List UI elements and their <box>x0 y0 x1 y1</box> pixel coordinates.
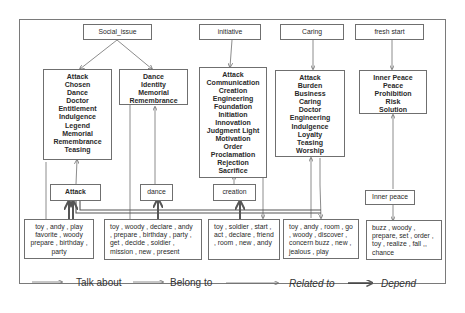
concept-item: Communication <box>200 79 266 87</box>
concept-item: Motivation <box>200 135 266 143</box>
concept-item: Business <box>276 90 344 98</box>
concept-item: Worship <box>276 147 344 155</box>
concept-item: Foundation <box>200 103 266 111</box>
concept-item: Sacrifice <box>200 167 266 175</box>
concept-item: Attack <box>200 71 266 79</box>
concept-item: Peace <box>360 82 426 90</box>
concept-item: Remembrance <box>44 138 111 146</box>
concept-list-fresh-start: Inner Peace Peace Prohibition Risk Solut… <box>359 70 427 114</box>
concept-item: Teasing <box>276 139 344 147</box>
topic-social-issue: Social_issue <box>83 24 152 40</box>
legend-talk-about: Talk about <box>70 275 122 289</box>
concept-item: Burden <box>276 82 344 90</box>
concept-item: Inner Peace <box>360 74 426 82</box>
concept-item: Identity <box>120 81 187 89</box>
topic-initiative: initiative <box>199 24 261 40</box>
concept-item: Chosen <box>44 81 111 89</box>
concept-item: Doctor <box>276 106 344 114</box>
concept-item: Order <box>200 143 266 151</box>
concept-item: Rejection <box>200 159 266 167</box>
concept-item: Solution <box>360 106 426 114</box>
concept-creation: creation <box>213 184 256 201</box>
concept-attack: Attack <box>50 184 101 201</box>
concept-inner-peace: Inner peace <box>365 190 415 205</box>
legend-label: Talk about <box>76 277 122 288</box>
concept-item: Prohibition <box>360 90 426 98</box>
legend-label: Belong to <box>170 277 212 288</box>
concept-item: Attack <box>276 74 344 82</box>
concept-item: Engineering <box>200 95 266 103</box>
concept-item: Creation <box>200 87 266 95</box>
concept-item: Caring <box>276 98 344 106</box>
concept-item: Loyalty <box>276 131 344 139</box>
concept-list-social-issue-b: Dance Identity Memorial Remembrance <box>119 69 188 105</box>
concept-item: Remembrance <box>120 97 187 105</box>
concept-item: Risk <box>360 98 426 106</box>
concept-item: Engineering <box>276 114 344 122</box>
word-group-2: toy , woody , declare , andy , prepare ,… <box>104 219 202 260</box>
concept-item: Dance <box>120 73 187 81</box>
topic-caring: Caring <box>280 24 344 40</box>
legend-related-to: Related to <box>283 276 335 290</box>
concept-item: Doctor <box>44 97 111 105</box>
concept-item: Initiation <box>200 111 266 119</box>
legend-belong-to: Belong to <box>164 275 212 289</box>
legend-label: Depend <box>381 278 416 289</box>
word-group-3: toy , soldier , start , act , declare , … <box>208 219 280 260</box>
concept-item: Memorial <box>120 89 187 97</box>
concept-list-social-issue-a: Attack Chosen Dance Doctor Entitlement I… <box>43 69 112 160</box>
concept-item: Dance <box>44 89 111 97</box>
concept-item: Attack <box>44 73 111 81</box>
concept-item: Innovation <box>200 119 266 127</box>
concept-item: Judgment Light <box>200 127 266 135</box>
word-group-1: toy , andy , play favorite , woody prepa… <box>24 219 94 259</box>
word-group-4: toy , andy , room , go , woody , discove… <box>283 219 359 259</box>
topic-fresh-start: fresh start <box>355 24 424 40</box>
concept-list-caring: Attack Burden Business Caring Doctor Eng… <box>275 70 345 157</box>
concept-list-initiative: Attack Communication Creation Engineerin… <box>199 67 267 178</box>
concept-item: Entitlement <box>44 105 111 113</box>
concept-item: Proclamation <box>200 151 266 159</box>
legend-label: Related to <box>289 278 335 289</box>
concept-item: Memorial <box>44 130 111 138</box>
concept-item: Indulgence <box>44 113 111 121</box>
concept-item: Indulgence <box>276 123 344 131</box>
concept-item: Teasing <box>44 146 111 154</box>
legend-depend: Depend <box>375 276 416 290</box>
concept-dance: dance <box>140 184 173 201</box>
concept-item: Legend <box>44 122 111 130</box>
word-group-5: buzz , woody , prepare, set , order , to… <box>366 220 442 260</box>
